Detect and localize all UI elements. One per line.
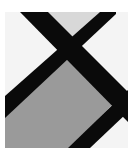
- photo-frame: [0, 0, 139, 157]
- diagonal-pattern-image: [0, 0, 139, 157]
